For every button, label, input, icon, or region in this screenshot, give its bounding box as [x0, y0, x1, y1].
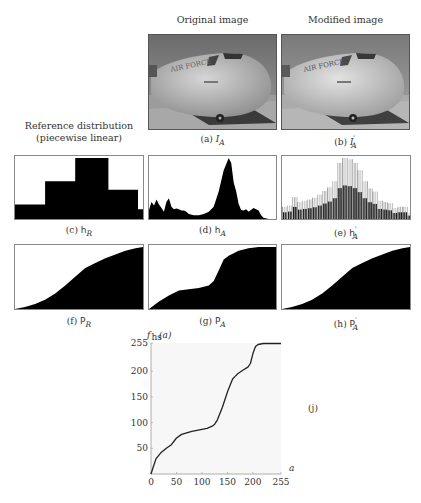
histogram-original-plot — [149, 156, 276, 219]
cumulative-reference — [14, 244, 144, 310]
histogram-original — [148, 155, 277, 220]
cumulative-modified — [281, 244, 411, 310]
histogram-modified — [281, 155, 411, 220]
column-title-modified: Modified image — [281, 14, 410, 25]
caption-b: (b) I′A — [281, 134, 410, 150]
cumulative-modified-plot — [282, 245, 410, 309]
svg-text:(a): (a) — [159, 330, 172, 340]
aircraft-nose-modified: AIR FORCE — [282, 35, 409, 129]
caption-c: (c) hR — [14, 225, 144, 238]
caption-a: (a) IA — [148, 134, 277, 147]
mapping-function-plot: 05010015020025550100150200255fhs(a)a — [120, 328, 300, 503]
cumulative-original — [148, 244, 277, 310]
caption-g: (g) PA — [148, 316, 277, 329]
cumulative-original-plot — [149, 245, 276, 309]
svg-text:200: 200 — [244, 477, 261, 487]
image-original: AIR FORCE — [148, 34, 277, 130]
svg-text:0: 0 — [148, 477, 154, 487]
reference-title-line1: Reference distribution — [10, 120, 148, 132]
svg-text:50: 50 — [137, 443, 149, 453]
svg-text:150: 150 — [131, 392, 148, 402]
caption-e: (e) h′A — [281, 225, 411, 241]
caption-j: (j) — [298, 403, 328, 413]
caption-f: (f) PR — [14, 316, 144, 329]
svg-text:100: 100 — [193, 477, 210, 487]
column-title-original: Original image — [148, 14, 277, 25]
svg-text:255: 255 — [131, 338, 148, 348]
caption-h: (h) P′A — [281, 316, 411, 332]
histogram-modified-plot — [282, 156, 410, 219]
svg-text:50: 50 — [171, 477, 183, 487]
aircraft-nose-original: AIR FORCE — [149, 35, 276, 129]
svg-text:150: 150 — [219, 477, 236, 487]
histogram-reference — [14, 155, 144, 220]
svg-text:200: 200 — [131, 366, 148, 376]
image-modified: AIR FORCE — [281, 34, 410, 130]
svg-text:255: 255 — [272, 477, 289, 487]
mapping-function-chart: 05010015020025550100150200255fhs(a)a — [120, 328, 300, 503]
cumulative-reference-plot — [15, 245, 143, 309]
caption-d: (d) hA — [148, 225, 277, 238]
reference-title-line2: (piecewise linear) — [10, 132, 148, 144]
reference-title: Reference distribution (piecewise linear… — [10, 120, 148, 144]
svg-text:a: a — [289, 463, 294, 473]
svg-text:100: 100 — [131, 418, 148, 428]
histogram-reference-plot — [15, 156, 143, 219]
